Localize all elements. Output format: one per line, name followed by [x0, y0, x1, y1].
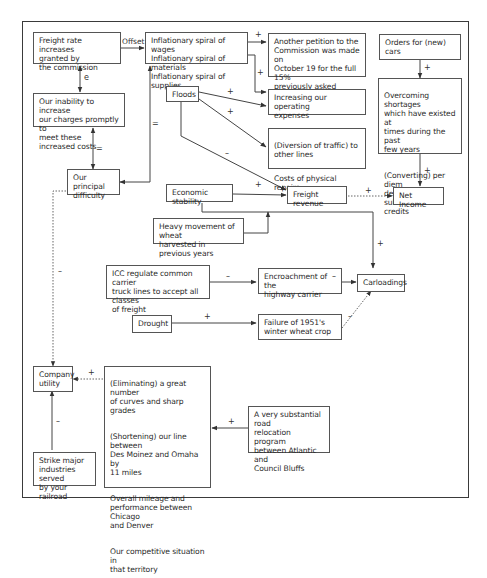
eliminating-text: (Eliminating) a great number of curves a…: [110, 379, 205, 415]
node-road-relocation: A very substantial road relocation progr…: [248, 406, 330, 453]
node-eliminating-curves: (Eliminating) a great number of curves a…: [104, 366, 211, 488]
node-carloadings: Carloadings: [357, 274, 405, 292]
node-inability-to-increase: Our inability to increase our charges pr…: [33, 93, 125, 127]
edge-label-difficulty-utility: –: [58, 268, 62, 276]
edge-label-shortages-income: +: [424, 167, 431, 175]
node-icc-regulate: ICC regulate common carrier truck lines …: [106, 265, 210, 299]
node-diversion-of-traffic: (Diversion of traffic) to other lines Co…: [268, 128, 366, 169]
edge-label-heavy-carloadings: +: [377, 240, 384, 248]
node-failure-wheat-crop: Failure of 1951's winter wheat crop: [258, 314, 342, 340]
node-floods: Floods: [166, 86, 199, 102]
node-company-utility: Company utility: [33, 366, 73, 392]
edge-label-floods-expenses: +: [227, 88, 234, 96]
node-inflationary-spiral: Inflationary spiral of wages Inflationar…: [145, 32, 248, 64]
edge-label-encroachment-carloadings: –: [332, 273, 336, 281]
node-principal-difficulty: Our principal difficulty: [67, 169, 120, 195]
node-strike: Strike major industries served by your r…: [33, 452, 96, 486]
competitive-situation-text: Our competitive situation in that territ…: [110, 547, 205, 574]
node-drought: Drought: [132, 315, 172, 333]
edge-label-failure-carloadings: –: [348, 313, 352, 321]
node-encroachment: Encroachment of the highway carrier: [258, 268, 342, 294]
edge-label-inflation-expenses: +: [257, 69, 264, 77]
node-net-income: Net Income: [393, 187, 444, 205]
overall-mileage-text: Overall mileage and performance between …: [110, 494, 205, 530]
node-economic-stability: Economic stability: [166, 184, 233, 202]
edge-label-orders-shortages: +: [424, 64, 431, 72]
edge-label-equals-2: =: [152, 120, 159, 128]
edge-label-eliminating-utility: +: [88, 369, 95, 377]
edge-label-floods-diversion: +: [227, 108, 234, 116]
diversion-text: (Diversion of traffic) to other lines: [274, 141, 360, 159]
node-orders-new-cars: Orders for (new) cars: [379, 34, 461, 60]
node-increasing-expenses: Increasing our operating expenses: [268, 89, 366, 115]
edge-label-icc-encroachment: –: [226, 273, 230, 281]
overcoming-shortages-text: Overcoming shortages which have existed …: [384, 91, 456, 154]
node-another-petition: Another petition to the Commission was m…: [268, 33, 366, 77]
edge-label-revenue-income: +: [365, 187, 372, 195]
node-freight-rate-increases: Freight rate increases granted by the co…: [33, 32, 121, 64]
node-freight-revenue: Freight revenue: [287, 186, 347, 204]
edge-label-offset: Offset: [122, 38, 145, 46]
edge-label-drought-failure: +: [204, 313, 211, 321]
edge-label-e: e: [84, 74, 89, 82]
node-heavy-movement-wheat: Heavy movement of wheat harvested in pre…: [153, 218, 244, 244]
edge-label-equals-1: =: [96, 145, 103, 153]
edge-label-floods-revenue: –: [225, 150, 229, 158]
edge-label-inflation-petition: +: [255, 31, 262, 39]
edge-label-road-eliminating: +: [228, 418, 235, 426]
node-overcoming-shortages: Overcoming shortages which have existed …: [378, 78, 462, 154]
edge-label-econ-revenue: +: [255, 181, 262, 189]
shortening-text: (Shortening) our line between Des Moinez…: [110, 432, 205, 477]
edge-label-strike-utility: –: [56, 418, 60, 426]
